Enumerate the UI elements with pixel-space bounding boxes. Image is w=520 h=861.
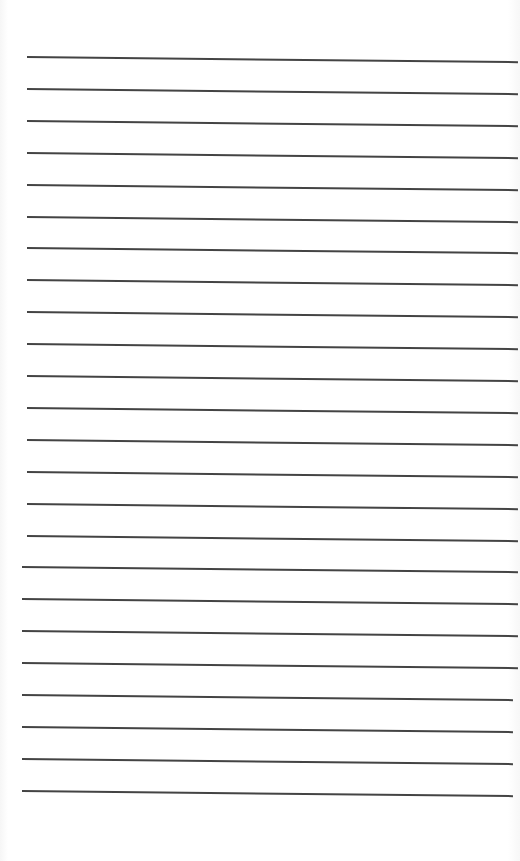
ruled-line (27, 311, 518, 318)
ruled-line (27, 184, 518, 191)
ruled-line (22, 598, 518, 605)
lined-paper-sheet (0, 0, 520, 861)
ruled-line (22, 662, 518, 669)
ruled-line (27, 375, 518, 382)
ruled-line (27, 216, 518, 223)
ruled-line (22, 726, 513, 733)
ruled-line (22, 694, 513, 701)
ruled-line (27, 439, 518, 446)
ruled-line (22, 758, 513, 765)
ruled-line (27, 279, 518, 286)
ruled-line (27, 471, 518, 478)
ruled-line (27, 120, 518, 127)
ruled-line (27, 247, 518, 254)
ruled-line (27, 56, 518, 63)
ruled-line (27, 535, 518, 542)
ruled-line (27, 343, 518, 350)
ruled-line (27, 152, 518, 159)
ruled-line (22, 790, 513, 797)
ruled-line (22, 566, 518, 573)
ruled-line (27, 88, 518, 95)
ruled-line (22, 630, 518, 637)
ruled-line (27, 503, 518, 510)
ruled-line (27, 407, 518, 414)
